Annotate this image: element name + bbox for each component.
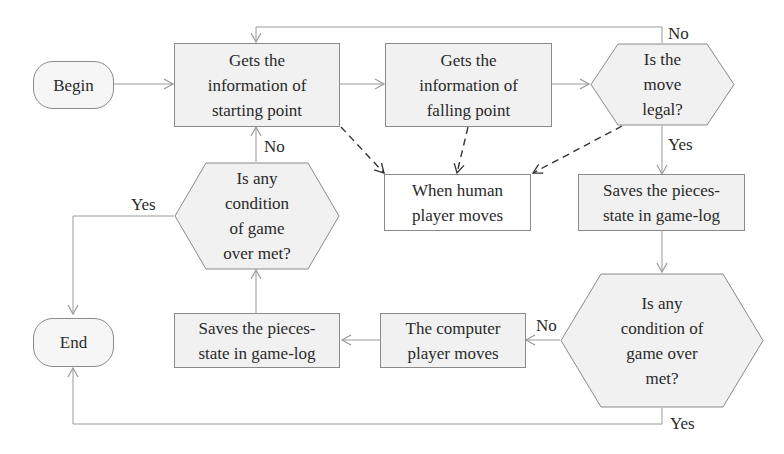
legal-no-label: No (668, 24, 689, 44)
game-over-2-label: Is any condition of game over met? (223, 166, 291, 266)
fall-info-process: Gets the information of falling point (385, 43, 552, 127)
over1-no-label: No (536, 316, 557, 336)
human-moves-label: When human player moves (412, 178, 503, 228)
legal-label: Is the move legal? (642, 47, 683, 122)
start-info-process: Gets the information of starting point (174, 43, 340, 127)
over2-yes-label: Yes (131, 195, 156, 215)
game-over-1-decision: Is any condition of game over met? (560, 273, 764, 408)
fall-info-label: Gets the information of falling point (419, 48, 518, 123)
end-label: End (60, 330, 87, 355)
over2-no-label: No (264, 137, 285, 157)
legal-decision: Is the move legal? (590, 43, 735, 126)
game-over-2-decision: Is any condition of game over met? (174, 162, 340, 270)
save-state-1-process: Saves the pieces- state in game-log (578, 174, 745, 231)
save-state-2-label: Saves the pieces- state in game-log (198, 316, 315, 366)
begin-terminator: Begin (33, 61, 114, 109)
start-info-label: Gets the information of starting point (208, 48, 307, 123)
legal-yes-label: Yes (668, 135, 693, 155)
save-state-2-process: Saves the pieces- state in game-log (174, 313, 340, 368)
over1-yes-label: Yes (670, 414, 695, 434)
end-terminator: End (33, 318, 114, 367)
human-moves-process: When human player moves (384, 174, 531, 231)
game-over-1-label: Is any condition of game over met? (621, 291, 704, 391)
computer-moves-process: The computer player moves (380, 313, 526, 368)
save-state-1-label: Saves the pieces- state in game-log (603, 178, 720, 228)
begin-label: Begin (53, 73, 94, 98)
computer-moves-label: The computer player moves (406, 316, 501, 366)
